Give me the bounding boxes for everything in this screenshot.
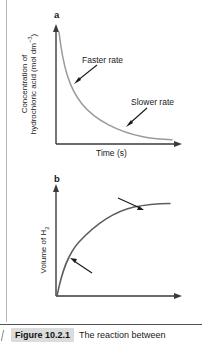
panel-b-y-axis-label: Volume of H2 [39,202,48,298]
figure-number-badge: Figure 10.2.1 [11,328,74,342]
panel-a-y-axis-label-line1: Concentration of [20,55,29,114]
panel-a-y-axis-label: Concentration of hydrochloric acid (mol … [20,20,38,148]
panel-a-annotation-slower-rate: Slower rate [131,98,174,107]
panel-b-y-axis-label-text: Volume of H [39,230,48,274]
caption-tick-mark [1,330,10,341]
panel-b-rise-curve [57,203,170,296]
panel-a-y-axis-arrowhead [53,24,59,32]
panel-a-x-axis-arrowhead [174,141,182,147]
figure-caption: Figure 10.2.1 The reaction between [0,324,202,344]
chart-panel-a: a Concentration of hydrochloric acid (mo… [0,0,202,168]
panel-a-annotation-faster-rate: Faster rate [82,56,123,65]
panel-a-x-axis-label: Time (s) [96,148,127,158]
panel-b-y-axis-label-subscript: 2 [44,227,50,230]
panel-a-y-axis-label-line2: hydrochloric acid (mol dm−3) [29,20,38,148]
panel-b-faster-rate-arrow [74,261,92,273]
figure-10-2-1: a Concentration of hydrochloric acid (mo… [0,0,202,344]
chart-panel-b: b Volume of H2 Time (s) Slower rate Fast… [0,168,202,320]
panel-b-y-axis-arrowhead [53,184,59,192]
panel-a-y-axis-label-line2-close: ) [29,34,38,37]
panel-a-y-axis-label-exponent: −3 [28,36,34,43]
panel-a-decay-curve [59,32,172,140]
panel-b-plot [0,168,202,320]
figure-caption-text: The reaction between [79,330,166,340]
panel-a-y-axis-label-line2-text: hydrochloric acid (mol dm [29,43,38,134]
panel-b-slower-rate-arrow [118,198,140,208]
panel-b-x-axis-arrowhead [174,293,182,299]
